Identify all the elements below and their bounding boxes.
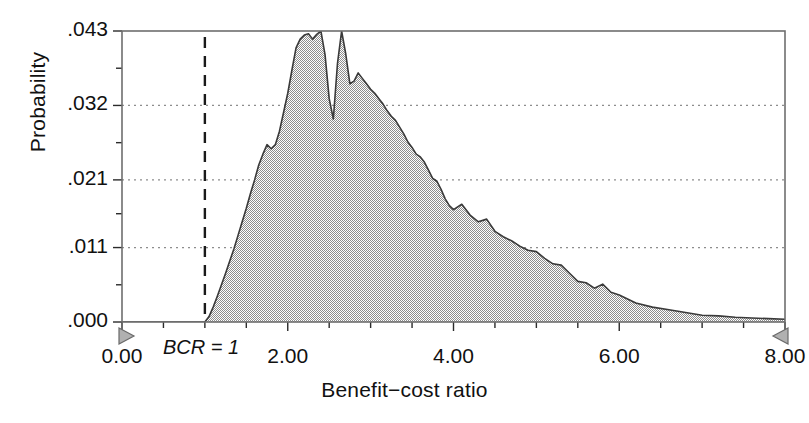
x-axis-ticks xyxy=(122,322,785,331)
y-tick-label: .032 xyxy=(0,91,108,115)
distribution-area-fill xyxy=(122,31,785,322)
x-tick-label: 0.00 xyxy=(62,344,182,368)
x-tick-label: 6.00 xyxy=(559,344,679,368)
x-axis-start-marker xyxy=(119,328,134,344)
y-tick-label: .021 xyxy=(0,166,108,190)
x-axis-end-marker xyxy=(773,328,788,344)
x-tick-label: 2.00 xyxy=(228,344,348,368)
y-tick-label: .000 xyxy=(0,308,108,332)
figure: Probability Benefit−cost ratio BCR = 1 .… xyxy=(0,0,809,423)
x-tick-label: 8.00 xyxy=(725,344,809,368)
y-tick-label: .011 xyxy=(0,234,108,258)
y-axis-ticks xyxy=(113,31,122,322)
y-tick-label: .043 xyxy=(0,17,108,41)
x-axis-title: Benefit−cost ratio xyxy=(0,378,809,402)
x-tick-label: 4.00 xyxy=(394,344,514,368)
